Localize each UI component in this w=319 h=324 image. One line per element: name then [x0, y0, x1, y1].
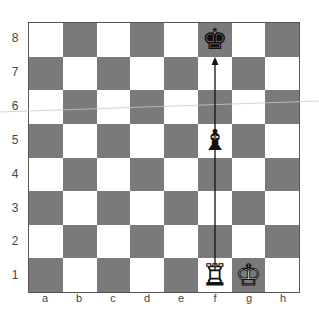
- square-h5: [265, 124, 299, 158]
- square-g3: [232, 191, 266, 225]
- square-d1: [130, 258, 164, 292]
- square-f4: [198, 158, 232, 192]
- black-bishop-icon: ♝: [202, 126, 228, 155]
- square-d3: [130, 191, 164, 225]
- square-d2: [130, 225, 164, 259]
- square-e2: [164, 225, 198, 259]
- square-a6: [29, 90, 63, 124]
- square-c8: [97, 23, 131, 57]
- square-g1: ♔: [232, 258, 266, 292]
- square-a1: [29, 258, 63, 292]
- rank-label-7: 7: [8, 65, 22, 79]
- square-c1: [97, 258, 131, 292]
- rank-label-3: 3: [8, 201, 22, 215]
- square-e6: [164, 90, 198, 124]
- file-label-a: a: [28, 292, 62, 304]
- square-d5: [130, 124, 164, 158]
- square-g4: [232, 158, 266, 192]
- square-a8: [29, 23, 63, 57]
- square-e4: [164, 158, 198, 192]
- white-king-icon: ♔: [235, 261, 261, 290]
- square-f6: [198, 90, 232, 124]
- square-g6: [232, 90, 266, 124]
- square-g8: [232, 23, 266, 57]
- square-c7: [97, 57, 131, 91]
- file-label-h: h: [266, 292, 300, 304]
- square-b2: [63, 225, 97, 259]
- square-f3: [198, 191, 232, 225]
- black-king-icon: ♚: [202, 25, 228, 54]
- square-a7: [29, 57, 63, 91]
- white-rook-icon: ♖: [202, 261, 228, 290]
- square-c3: [97, 191, 131, 225]
- square-c6: [97, 90, 131, 124]
- square-b4: [63, 158, 97, 192]
- rank-label-2: 2: [8, 234, 22, 248]
- square-g2: [232, 225, 266, 259]
- square-h7: [265, 57, 299, 91]
- square-c5: [97, 124, 131, 158]
- square-b3: [63, 191, 97, 225]
- chess-board: ♚♝♖♔: [28, 22, 300, 293]
- square-h6: [265, 90, 299, 124]
- square-d7: [130, 57, 164, 91]
- square-d8: [130, 23, 164, 57]
- file-label-c: c: [96, 292, 130, 304]
- rank-label-6: 6: [8, 99, 22, 113]
- file-label-e: e: [164, 292, 198, 304]
- square-d4: [130, 158, 164, 192]
- square-f2: [198, 225, 232, 259]
- square-b8: [63, 23, 97, 57]
- rank-label-5: 5: [8, 133, 22, 147]
- rank-label-4: 4: [8, 167, 22, 181]
- file-label-b: b: [62, 292, 96, 304]
- square-e8: [164, 23, 198, 57]
- square-h4: [265, 158, 299, 192]
- square-e5: [164, 124, 198, 158]
- square-a5: [29, 124, 63, 158]
- square-g7: [232, 57, 266, 91]
- square-c2: [97, 225, 131, 259]
- square-b5: [63, 124, 97, 158]
- file-label-g: g: [232, 292, 266, 304]
- square-e3: [164, 191, 198, 225]
- square-b1: [63, 258, 97, 292]
- file-label-d: d: [130, 292, 164, 304]
- square-c4: [97, 158, 131, 192]
- square-d6: [130, 90, 164, 124]
- square-b7: [63, 57, 97, 91]
- square-f7: [198, 57, 232, 91]
- square-h2: [265, 225, 299, 259]
- square-h3: [265, 191, 299, 225]
- square-f8: ♚: [198, 23, 232, 57]
- square-e1: [164, 258, 198, 292]
- square-f1: ♖: [198, 258, 232, 292]
- rank-label-1: 1: [8, 268, 22, 282]
- square-h1: [265, 258, 299, 292]
- square-a3: [29, 191, 63, 225]
- square-a4: [29, 158, 63, 192]
- square-a2: [29, 225, 63, 259]
- square-e7: [164, 57, 198, 91]
- rank-label-8: 8: [8, 31, 22, 45]
- square-f5: ♝: [198, 124, 232, 158]
- square-g5: [232, 124, 266, 158]
- square-b6: [63, 90, 97, 124]
- file-label-f: f: [198, 292, 232, 304]
- square-h8: [265, 23, 299, 57]
